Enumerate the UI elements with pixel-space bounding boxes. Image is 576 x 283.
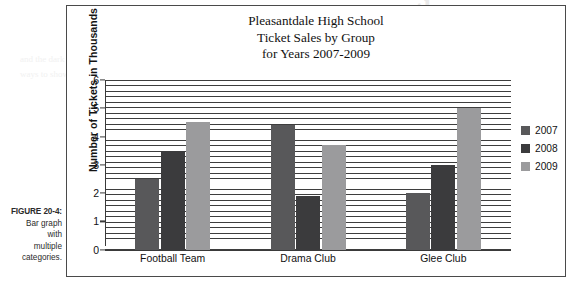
bar-2007-drama-club — [271, 125, 295, 249]
y-tick-label-3: 3 — [83, 159, 99, 171]
chart-title-line-0: Pleasantdale High School — [67, 13, 565, 30]
y-tick-label-5: 5 — [83, 102, 99, 114]
y-axis-title: Number of Tickets in Thousands — [87, 2, 99, 178]
y-tick-mark-1 — [100, 221, 105, 222]
bar-2009-glee-club — [457, 108, 481, 249]
y-tick-mark-4 — [100, 136, 105, 137]
chart-title-line-2: for Years 2007-2009 — [67, 46, 565, 63]
legend-label-2008: 2008 — [535, 143, 558, 154]
bar-2007-football-team — [135, 179, 159, 250]
figure-caption-line-1: with — [0, 229, 62, 241]
legend-item-2008: 2008 — [521, 139, 558, 157]
y-tick-label-1: 1 — [83, 215, 99, 227]
bar-2009-drama-club — [322, 145, 346, 250]
legend-item-2007: 2007 — [521, 121, 558, 139]
legend-label-2009: 2009 — [535, 161, 558, 172]
figure-caption-line-2: multiple — [0, 241, 62, 253]
figure-caption-line-0: Bar graph — [0, 218, 62, 230]
y-tick-mark-5 — [100, 108, 105, 109]
x-label-football-team: Football Team — [140, 253, 205, 264]
y-tick-label-0: 0 — [83, 244, 99, 256]
bar-2008-drama-club — [296, 196, 320, 250]
legend-swatch-2007 — [521, 126, 530, 135]
chart-legend: 200720082009 — [521, 121, 558, 175]
y-tick-mark-2 — [100, 192, 105, 193]
plot-area: 0123456 Football TeamDrama ClubGlee Club — [105, 75, 511, 251]
figure-caption-label: FIGURE 20-4: — [11, 207, 62, 216]
legend-swatch-2008 — [521, 144, 530, 153]
legend-swatch-2009 — [521, 162, 530, 171]
figure-caption: FIGURE 20-4: Bar graph with multiple cat… — [0, 206, 62, 264]
y-tick-label-6: 6 — [83, 74, 99, 86]
bar-2009-football-team — [186, 122, 210, 249]
chart-title: Pleasantdale High School Ticket Sales by… — [67, 13, 565, 63]
x-axis-line — [105, 250, 511, 251]
y-axis-line — [105, 80, 106, 246]
y-tick-mark-6 — [100, 79, 105, 80]
x-label-drama-club: Drama Club — [280, 253, 335, 264]
x-label-glee-club: Glee Club — [420, 253, 466, 264]
bar-2007-glee-club — [406, 193, 430, 250]
bar-2008-glee-club — [431, 165, 455, 250]
y-tick-label-4: 4 — [83, 131, 99, 143]
bar-2008-football-team — [161, 151, 185, 250]
legend-item-2009: 2009 — [521, 157, 558, 175]
y-tick-mark-0 — [100, 249, 105, 250]
y-tick-mark-3 — [100, 164, 105, 165]
figure-caption-line-3: categories. — [0, 252, 62, 264]
chart-title-line-1: Ticket Sales by Group — [67, 30, 565, 47]
legend-label-2007: 2007 — [535, 125, 558, 136]
y-tick-label-2: 2 — [83, 187, 99, 199]
figure-frame: Pleasantdale High School Ticket Sales by… — [66, 5, 566, 277]
